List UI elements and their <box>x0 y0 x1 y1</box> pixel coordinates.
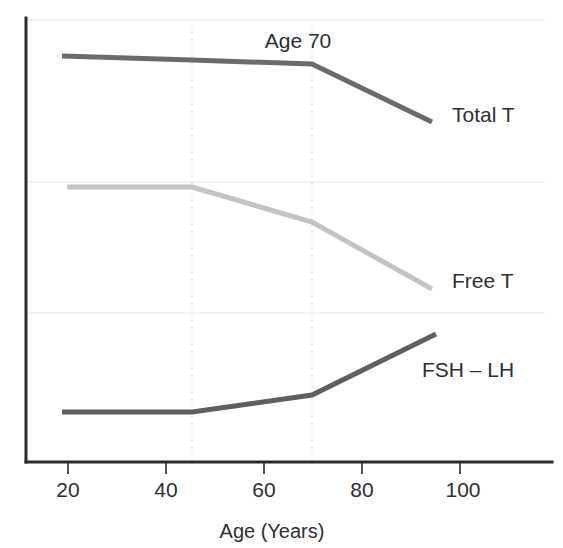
series-label-fsh-lh: FSH – LH <box>422 358 514 381</box>
tick-label-60: 60 <box>252 478 275 501</box>
series-label-total-t: Total T <box>452 103 515 126</box>
line-chart: 20 40 60 80 100 Age (Years) Age 70 Total… <box>0 0 563 548</box>
tick-label-80: 80 <box>350 478 373 501</box>
annotation-age-70: Age 70 <box>265 29 332 52</box>
x-axis-title: Age (Years) <box>220 520 325 542</box>
series-label-free-t: Free T <box>452 269 514 292</box>
tick-label-20: 20 <box>56 478 79 501</box>
chart-container: 20 40 60 80 100 Age (Years) Age 70 Total… <box>0 0 563 548</box>
tick-label-40: 40 <box>154 478 177 501</box>
tick-label-100: 100 <box>445 478 480 501</box>
